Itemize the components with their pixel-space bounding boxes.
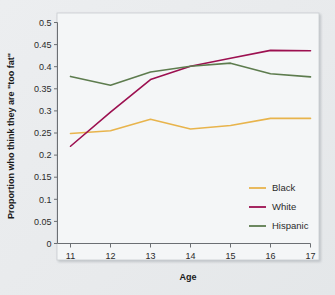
- x-tick-label: 15: [225, 251, 235, 261]
- y-tick-label: 0.35: [34, 84, 52, 94]
- y-tick-label: 0.45: [34, 40, 52, 50]
- y-tick-label: 0.15: [34, 172, 52, 182]
- y-axis-title: Proportion who think they are "too fat": [6, 53, 16, 219]
- chart-figure: 00.050.10.150.20.250.30.350.40.450.5 111…: [0, 0, 335, 295]
- x-axis-title: Age: [179, 272, 196, 282]
- line-chart: 00.050.10.150.20.250.30.350.40.450.5 111…: [0, 0, 335, 295]
- y-tick-label: 0.3: [39, 106, 52, 116]
- y-tick-label: 0.25: [34, 128, 52, 138]
- y-tick-label: 0.5: [39, 18, 52, 28]
- y-tick-label: 0.1: [39, 195, 52, 205]
- x-tick-label: 14: [185, 251, 195, 261]
- legend-label-hispanic: Hispanic: [272, 220, 309, 231]
- y-tick-label: 0.05: [34, 217, 52, 227]
- y-axis-ticks: 00.050.10.150.20.250.30.350.40.450.5: [34, 18, 58, 249]
- legend-label-white: White: [272, 201, 296, 212]
- y-tick-label: 0.4: [39, 62, 52, 72]
- x-tick-label: 11: [66, 251, 75, 261]
- x-tick-label: 16: [265, 251, 275, 261]
- y-tick-label: 0: [46, 239, 51, 249]
- x-tick-label: 12: [105, 251, 115, 261]
- x-tick-label: 13: [145, 251, 155, 261]
- legend-label-black: Black: [272, 182, 295, 193]
- x-tick-label: 17: [305, 251, 315, 261]
- y-tick-label: 0.2: [39, 150, 52, 160]
